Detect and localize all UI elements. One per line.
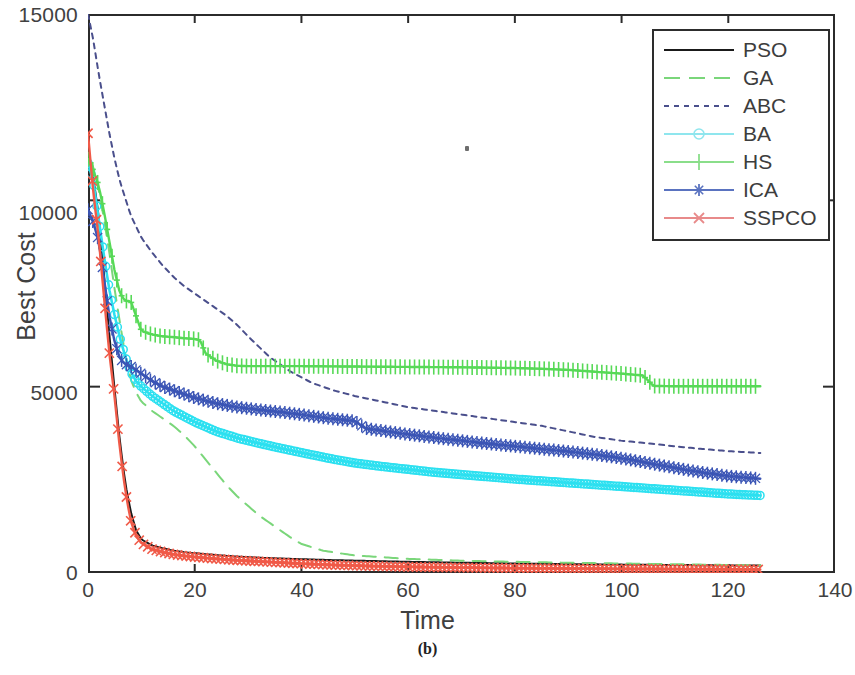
x-tick-140: 140	[800, 578, 855, 602]
legend-swatch-ba	[662, 123, 736, 145]
legend-label-pso: PSO	[743, 39, 787, 61]
image-speck-artifact	[465, 146, 469, 151]
y-tick-15000: 15000	[19, 3, 78, 27]
legend-swatch-ga	[662, 67, 736, 89]
legend-item-hs[interactable]: HS	[654, 148, 828, 176]
legend-swatch-pso	[662, 39, 736, 61]
x-tick-40: 40	[267, 578, 337, 602]
x-tick-20: 20	[160, 578, 230, 602]
figure-container: 15000 10000 5000 0 0 20 40 60 80 100 120…	[0, 0, 855, 675]
legend-label-ica: ICA	[743, 179, 778, 201]
legend-swatch-hs	[662, 151, 736, 173]
x-tick-100: 100	[587, 578, 657, 602]
chart-legend: PSO GA ABC BA HS ICA SSPCO	[652, 29, 830, 241]
legend-item-sspco[interactable]: SSPCO	[654, 204, 828, 232]
x-tick-120: 120	[693, 578, 763, 602]
legend-item-ica[interactable]: ICA	[654, 176, 828, 204]
x-tick-0: 0	[53, 578, 123, 602]
legend-label-sspco: SSPCO	[743, 207, 817, 229]
legend-swatch-ica	[662, 179, 736, 201]
legend-label-ba: BA	[743, 123, 771, 145]
x-tick-80: 80	[480, 578, 550, 602]
legend-item-abc[interactable]: ABC	[654, 92, 828, 120]
legend-label-abc: ABC	[743, 95, 786, 117]
legend-label-hs: HS	[743, 151, 772, 173]
legend-label-ga: GA	[743, 67, 773, 89]
x-tick-60: 60	[373, 578, 443, 602]
legend-item-pso[interactable]: PSO	[654, 36, 828, 64]
legend-item-ba[interactable]: BA	[654, 120, 828, 148]
legend-swatch-abc	[662, 95, 736, 117]
figure-caption: (b)	[0, 640, 855, 658]
y-axis-title: Best Cost	[12, 177, 41, 397]
legend-item-ga[interactable]: GA	[654, 64, 828, 92]
legend-swatch-sspco	[662, 207, 736, 229]
x-axis-title: Time	[0, 606, 855, 635]
